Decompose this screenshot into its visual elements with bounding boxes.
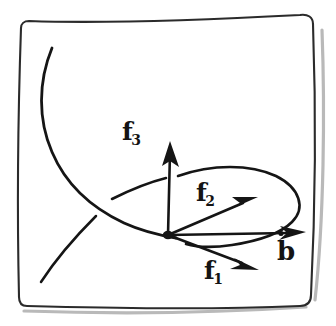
trajectory-branch-curve xyxy=(41,216,96,282)
label-f2-subscript: 2 xyxy=(205,193,215,209)
label-f1: f1 xyxy=(204,258,223,286)
label-f3: f3 xyxy=(122,119,141,147)
origin-point xyxy=(163,231,173,239)
b-doubledot-wrapper: b xyxy=(277,238,295,264)
vector-f3-shaft xyxy=(168,152,170,235)
label-f3-subscript: 3 xyxy=(131,132,141,148)
figure-canvas: f3 f2 f1 b xyxy=(0,0,336,326)
figure-drawing xyxy=(0,0,336,326)
label-b-doubledot: b xyxy=(277,238,295,264)
label-f2: f2 xyxy=(196,180,215,208)
label-f1-subscript: 1 xyxy=(213,271,223,287)
trajectory-main-curve xyxy=(42,48,177,238)
vector-f2-arrowhead xyxy=(231,197,258,209)
trajectory-curves xyxy=(41,48,176,282)
orbit-left-stub xyxy=(112,178,166,199)
label-b-base: b xyxy=(277,236,295,266)
vector-f3 xyxy=(162,141,179,235)
scan-shadow-group xyxy=(24,30,324,313)
double-dot-accent-icon xyxy=(278,231,293,237)
right-edge-shadow xyxy=(315,30,324,300)
